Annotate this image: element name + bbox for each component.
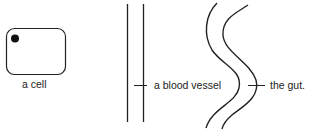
diagram-canvas [0, 0, 313, 133]
cell-nucleus [11, 35, 19, 43]
blood-vessel-label: a blood vessel [154, 79, 221, 91]
cell-label: a cell [22, 78, 47, 90]
gut-label: the gut. [270, 79, 305, 91]
cell-figure [7, 29, 66, 75]
gut-wall-right [222, 5, 257, 129]
blood-vessel-figure [128, 4, 148, 122]
gut-wall-left [206, 3, 240, 128]
gut-figure [206, 3, 265, 129]
